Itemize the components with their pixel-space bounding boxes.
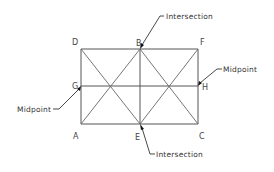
callout-bottom-intersection: Intersection xyxy=(140,124,203,159)
label-F: F xyxy=(200,38,205,47)
label-C: C xyxy=(199,132,205,141)
label-A: A xyxy=(73,132,79,141)
label-G: G xyxy=(72,82,78,91)
label-E: E xyxy=(135,133,140,142)
callout-text-left-midpoint: Midpoint xyxy=(17,105,51,114)
leader-line-bottom xyxy=(142,128,155,154)
leader-line-left xyxy=(53,89,79,109)
label-H: H xyxy=(202,83,208,92)
center-lines xyxy=(81,49,198,124)
geometry-diagram: D B F G H A E C Intersection Midpoint Mi… xyxy=(0,0,274,172)
callout-text-top-intersection: Intersection xyxy=(166,12,213,21)
callout-text-bottom-intersection: Intersection xyxy=(156,150,203,159)
leader-line-right xyxy=(200,69,222,83)
leader-line-top xyxy=(142,16,164,45)
label-D: D xyxy=(72,38,78,47)
arrow-head-bottom-icon xyxy=(140,124,144,130)
callout-text-right-midpoint: Midpoint xyxy=(223,65,257,74)
